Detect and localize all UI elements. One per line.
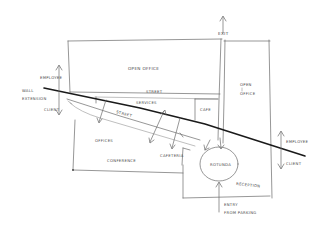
label-open-office-right-1: OPEN bbox=[240, 82, 252, 87]
label-offices: OFFICES bbox=[95, 138, 113, 143]
label-employee-right: EMPLOYEE bbox=[286, 139, 309, 144]
label-open-office-main: OPEN OFFICE bbox=[128, 66, 159, 71]
label-services: SERVICES bbox=[136, 100, 157, 105]
label-open-office-right-2: OFFICE bbox=[240, 91, 256, 96]
right-flow-arrow bbox=[278, 131, 284, 169]
label-cafe: CAFE bbox=[200, 107, 211, 112]
label-employee-left: EMPLOYEE bbox=[40, 75, 63, 80]
label-wall-2: EXTENSION bbox=[22, 96, 47, 101]
building-outline bbox=[68, 39, 272, 198]
label-cafeteria: CAFETERIA bbox=[160, 153, 184, 158]
label-street-diagonal: STREET bbox=[116, 109, 133, 118]
label-conference: CONFERENCE bbox=[107, 158, 136, 163]
label-street-upper: STREET bbox=[146, 89, 163, 94]
label-reception: RECEPTION bbox=[236, 181, 261, 189]
label-client-left: CLIENT bbox=[44, 107, 60, 112]
label-wall-1: WALL bbox=[22, 88, 34, 93]
label-client-right: CLIENT bbox=[286, 161, 302, 166]
floor-plan-sketch: EXIT OPEN OFFICE OPEN OFFICE EMPLOYEE WA… bbox=[0, 0, 333, 236]
label-entry-1: ENTRY bbox=[224, 202, 238, 207]
label-rotunda: ROTUNDA bbox=[210, 162, 231, 167]
label-entry-2: FROM PARKING bbox=[224, 210, 257, 215]
label-exit: EXIT bbox=[218, 31, 229, 36]
